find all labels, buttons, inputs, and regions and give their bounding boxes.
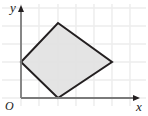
plot-canvas	[0, 0, 148, 116]
coordinate-plane-figure: y x O	[0, 0, 148, 116]
quadrilateral-shape	[21, 23, 112, 98]
y-axis-label: y	[10, 1, 16, 14]
x-axis-label: x	[136, 100, 142, 113]
origin-label: O	[5, 100, 14, 112]
